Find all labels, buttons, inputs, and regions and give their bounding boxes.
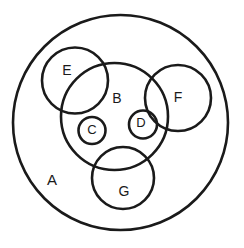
circle-label-d: D xyxy=(136,115,145,130)
circle-label-b: B xyxy=(112,90,121,106)
circle-label-c: C xyxy=(87,122,96,137)
circles-svg: ABEFCDG xyxy=(0,0,244,248)
circle-label-g: G xyxy=(119,183,130,199)
diagram-canvas: ABEFCDG xyxy=(0,0,244,248)
circle-label-f: F xyxy=(174,89,183,105)
labels-group: ABEFCDG xyxy=(47,62,182,199)
circle-label-e: E xyxy=(62,62,71,78)
circle-g xyxy=(92,147,154,209)
circle-label-a: A xyxy=(47,171,57,188)
